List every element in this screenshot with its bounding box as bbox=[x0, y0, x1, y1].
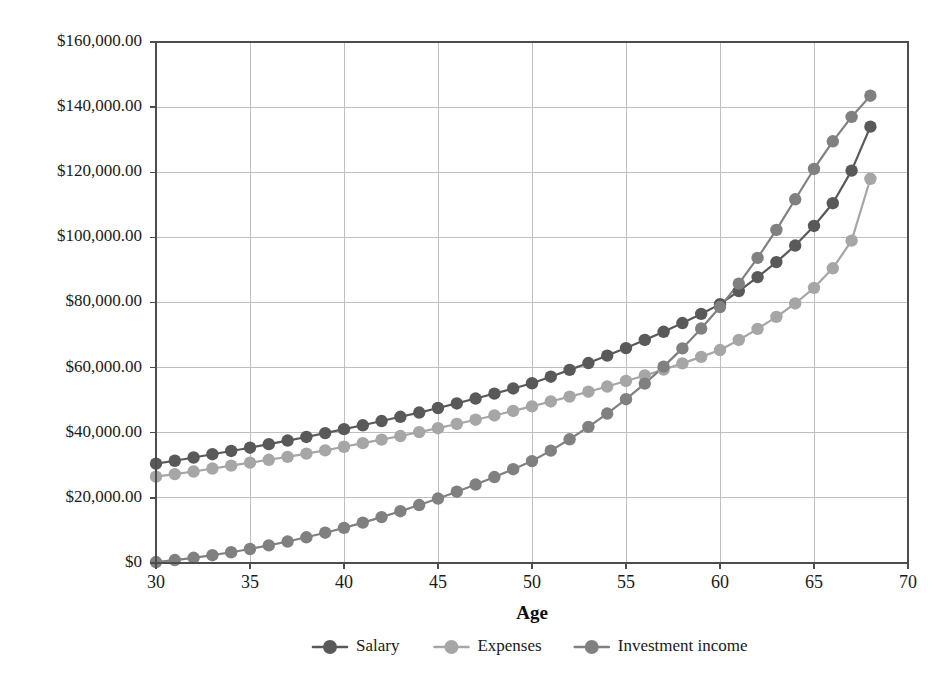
x-axis-tick-label: 65 bbox=[805, 572, 823, 592]
data-point-marker bbox=[864, 90, 876, 102]
data-point-marker bbox=[507, 463, 519, 475]
legend-label: Salary bbox=[356, 636, 400, 655]
data-markers bbox=[150, 120, 877, 469]
data-point-marker bbox=[244, 442, 256, 454]
y-axis-tick-label: $60,000.00 bbox=[66, 357, 143, 376]
data-point-marker bbox=[563, 364, 575, 376]
data-point-marker bbox=[864, 173, 876, 185]
data-point-marker bbox=[338, 522, 350, 534]
data-point-marker bbox=[451, 418, 463, 430]
data-point-marker bbox=[676, 317, 688, 329]
data-point-marker bbox=[225, 546, 237, 558]
data-point-marker bbox=[244, 543, 256, 555]
data-point-marker bbox=[827, 262, 839, 274]
data-point-marker bbox=[526, 377, 538, 389]
axis-labels: $0$20,000.00$40,000.00$60,000.00$80,000.… bbox=[57, 31, 917, 623]
x-axis-tick-label: 55 bbox=[617, 572, 635, 592]
x-axis-tick-label: 50 bbox=[523, 572, 541, 592]
data-point-marker bbox=[488, 387, 500, 399]
legend-item[interactable]: Expenses bbox=[434, 636, 541, 655]
legend-marker-swatch bbox=[323, 640, 337, 654]
data-point-marker bbox=[808, 163, 820, 175]
chart-container: $0$20,000.00$40,000.00$60,000.00$80,000.… bbox=[0, 0, 933, 690]
x-axis-tick-label: 30 bbox=[147, 572, 165, 592]
data-point-marker bbox=[845, 234, 857, 246]
data-point-marker bbox=[770, 224, 782, 236]
data-point-marker bbox=[639, 377, 651, 389]
data-point-marker bbox=[225, 445, 237, 457]
data-point-marker bbox=[770, 256, 782, 268]
chart-legend: SalaryExpensesInvestment income bbox=[313, 636, 748, 655]
legend-item[interactable]: Salary bbox=[313, 636, 400, 655]
data-point-marker bbox=[582, 421, 594, 433]
legend-marker-swatch bbox=[585, 640, 599, 654]
data-point-marker bbox=[225, 459, 237, 471]
data-point-marker bbox=[432, 422, 444, 434]
data-point-marker bbox=[319, 527, 331, 539]
y-axis-tick-label: $80,000.00 bbox=[66, 291, 143, 310]
data-point-marker bbox=[488, 471, 500, 483]
data-point-marker bbox=[864, 120, 876, 132]
data-point-marker bbox=[187, 451, 199, 463]
data-point-marker bbox=[187, 552, 199, 564]
data-point-marker bbox=[808, 282, 820, 294]
x-axis-tick-label: 45 bbox=[429, 572, 447, 592]
data-point-marker bbox=[187, 465, 199, 477]
data-point-marker bbox=[488, 409, 500, 421]
data-point-marker bbox=[695, 308, 707, 320]
data-point-marker bbox=[357, 516, 369, 528]
data-point-marker bbox=[263, 438, 275, 450]
data-point-marker bbox=[808, 220, 820, 232]
data-point-marker bbox=[451, 397, 463, 409]
data-point-marker bbox=[281, 451, 293, 463]
data-point-marker bbox=[657, 326, 669, 338]
data-point-marker bbox=[206, 462, 218, 474]
data-point-marker bbox=[601, 349, 613, 361]
data-point-marker bbox=[432, 492, 444, 504]
data-point-marker bbox=[469, 478, 481, 490]
data-point-marker bbox=[695, 351, 707, 363]
data-point-marker bbox=[676, 357, 688, 369]
data-point-marker bbox=[714, 301, 726, 313]
y-axis-tick-label: $20,000.00 bbox=[66, 487, 143, 506]
data-point-marker bbox=[620, 375, 632, 387]
y-axis-tick-label: $120,000.00 bbox=[57, 161, 142, 180]
data-point-marker bbox=[206, 448, 218, 460]
x-axis-tick-label: 60 bbox=[711, 572, 729, 592]
data-point-marker bbox=[432, 402, 444, 414]
data-point-marker bbox=[789, 297, 801, 309]
legend-item[interactable]: Investment income bbox=[575, 636, 748, 655]
x-axis-tick-label: 40 bbox=[335, 572, 353, 592]
legend-label: Investment income bbox=[618, 636, 748, 655]
data-point-marker bbox=[451, 485, 463, 497]
data-point-marker bbox=[582, 386, 594, 398]
series-layer bbox=[150, 90, 877, 569]
data-markers bbox=[150, 90, 877, 569]
data-point-marker bbox=[639, 334, 651, 346]
data-point-marker bbox=[563, 390, 575, 402]
legend-marker-swatch bbox=[444, 640, 458, 654]
line-chart: $0$20,000.00$40,000.00$60,000.00$80,000.… bbox=[0, 0, 933, 690]
data-point-marker bbox=[300, 447, 312, 459]
data-point-marker bbox=[545, 371, 557, 383]
x-axis-tick-label: 70 bbox=[899, 572, 917, 592]
data-point-marker bbox=[545, 444, 557, 456]
data-point-marker bbox=[695, 322, 707, 334]
data-point-marker bbox=[413, 426, 425, 438]
data-point-marker bbox=[582, 357, 594, 369]
data-point-marker bbox=[770, 311, 782, 323]
data-point-marker bbox=[507, 405, 519, 417]
data-point-marker bbox=[413, 499, 425, 511]
x-axis-title: Age bbox=[516, 602, 548, 623]
data-point-marker bbox=[169, 554, 181, 566]
data-point-marker bbox=[789, 193, 801, 205]
data-point-marker bbox=[827, 135, 839, 147]
data-point-marker bbox=[319, 427, 331, 439]
data-point-marker bbox=[601, 380, 613, 392]
y-axis-tick-label: $0 bbox=[125, 552, 142, 571]
data-point-marker bbox=[620, 393, 632, 405]
data-point-marker bbox=[263, 454, 275, 466]
x-axis-tick-label: 35 bbox=[241, 572, 259, 592]
y-axis-tick-label: $40,000.00 bbox=[66, 422, 143, 441]
data-point-marker bbox=[357, 437, 369, 449]
